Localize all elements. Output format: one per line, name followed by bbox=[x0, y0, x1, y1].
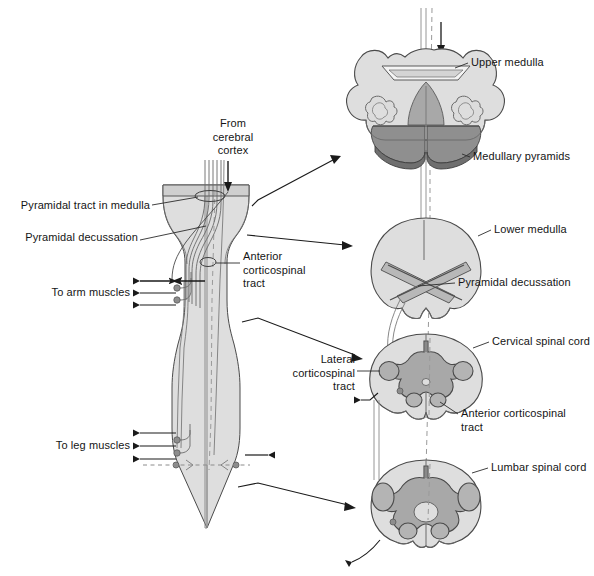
leg-output-arrows bbox=[133, 430, 176, 463]
lumbar-spinal-cord-section bbox=[345, 460, 481, 567]
cervical-anterior-cst-left bbox=[406, 393, 422, 407]
connector-lumbar bbox=[238, 483, 348, 505]
label-cervical-spinal-cord: Cervical spinal cord bbox=[492, 335, 594, 349]
connector-lower-medulla bbox=[247, 235, 345, 245]
leader-lower-medulla bbox=[478, 230, 491, 236]
label-from-cerebral-cortex: From cerebral cortex bbox=[203, 117, 263, 158]
label-lower-medulla: Lower medulla bbox=[494, 223, 584, 237]
label-lumbar-spinal-cord: Lumbar spinal cord bbox=[491, 461, 591, 475]
cervical-output-arrowhead bbox=[354, 397, 361, 404]
label-medullary-pyramids: Medullary pyramids bbox=[473, 150, 581, 164]
label-pyramidal-tract-in-medulla: Pyramidal tract in medulla bbox=[8, 199, 150, 213]
label-pyramidal-decussation-right: Pyramidal decussation bbox=[458, 276, 582, 290]
brainstem-cord-outline bbox=[163, 185, 249, 528]
leader-lumbar bbox=[472, 468, 488, 473]
leg-motor-neuron-1 bbox=[174, 437, 180, 443]
lumbar-right-arrowhead bbox=[268, 452, 275, 459]
lumbar-lateral-cst-right bbox=[458, 483, 480, 511]
arm-motor-neuron-1 bbox=[174, 285, 180, 291]
label-lateral-corticospinal-tract: Lateral corticospinal tract bbox=[281, 353, 355, 394]
fourth-ventricle-inner bbox=[389, 70, 463, 77]
cervical-central-canal bbox=[422, 379, 430, 386]
label-pyramidal-decussation-left: Pyramidal decussation bbox=[8, 231, 138, 245]
arm-output-arrows bbox=[133, 278, 177, 309]
lumbar-output-line bbox=[352, 540, 380, 562]
arm-motor-neuron-2 bbox=[174, 297, 180, 303]
longitudinal-brainstem-cord bbox=[133, 160, 275, 528]
label-upper-medulla: Upper medulla bbox=[471, 56, 575, 70]
connector-upper-medulla bbox=[252, 160, 333, 206]
lumbar-lateral-cst-left bbox=[372, 483, 394, 511]
section-connectors bbox=[238, 160, 355, 505]
connector-cervical bbox=[242, 318, 355, 355]
leader-cervical bbox=[473, 342, 489, 348]
label-to-leg-muscles: To leg muscles bbox=[36, 439, 130, 453]
lumbar-output-arrowhead bbox=[345, 560, 352, 567]
leg-motor-neuron-2 bbox=[174, 450, 180, 456]
lumbar-central-canal bbox=[414, 502, 438, 522]
lumbar-anterior-cst-right bbox=[431, 523, 449, 539]
cervical-lateral-cst-right bbox=[453, 362, 473, 381]
lumbar-anterior-cst-left bbox=[399, 523, 417, 539]
section-connector-heads bbox=[330, 155, 363, 511]
label-anterior-corticospinal-tract-left: Anterior corticospinal tract bbox=[243, 250, 323, 291]
label-anterior-corticospinal-tract-right: Anterior corticospinal tract bbox=[461, 407, 579, 434]
lumbar-motor-neuron-node bbox=[390, 519, 396, 525]
label-to-arm-muscles: To arm muscles bbox=[36, 286, 130, 300]
cervical-lateral-cst-left bbox=[379, 362, 399, 381]
cervical-motor-neuron-node bbox=[397, 388, 403, 394]
